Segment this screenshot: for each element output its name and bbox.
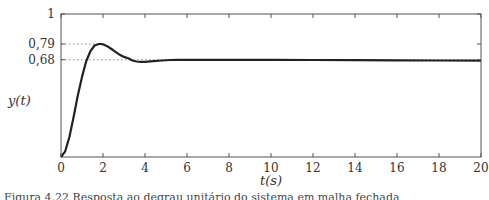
x-tick-label: 6 [183,161,191,175]
y-tick-label: 1 [47,7,55,21]
x-tick-label: 14 [347,161,363,175]
x-tick-label: 12 [305,161,320,175]
plot-axes [61,14,481,157]
x-ticks: 02468101214161820 [57,14,488,175]
x-tick-label: 2 [99,161,107,175]
step-response-chart: 02468101214161820 0,680,791 t(s) y(t) [0,0,489,190]
x-tick-label: 4 [141,161,149,175]
x-tick-label: 8 [225,161,233,175]
response-curve [61,44,481,157]
x-tick-label: 0 [57,161,65,175]
y-axis-label: y(t) [7,93,31,108]
y-tick-label: 0,79 [28,37,55,51]
y-ticks: 0,680,791 [28,7,481,67]
x-tick-label: 18 [431,161,446,175]
x-tick-label: 16 [389,161,404,175]
y-tick-label: 0,68 [28,53,55,67]
x-axis-label: t(s) [260,173,282,188]
figure-caption: Figura 4.22 Resposta ao degrau unitário … [4,191,399,200]
x-tick-label: 20 [473,161,488,175]
